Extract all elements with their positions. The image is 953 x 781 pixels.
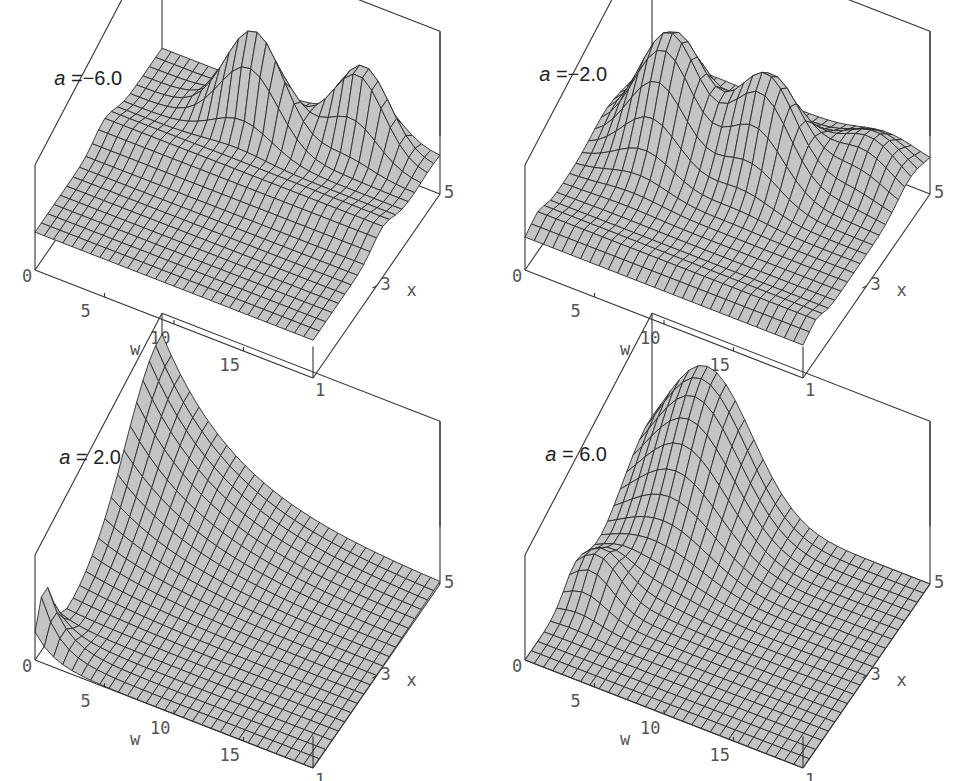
- x-tick-label: 5: [444, 182, 454, 202]
- x-axis-label: x: [407, 670, 417, 690]
- w-tick-label: 0: [22, 656, 32, 676]
- plot-panel-a-neg6: 051015w135x a =−6.0: [0, 0, 476, 390]
- w-tick-label: 15: [220, 355, 240, 375]
- frame-edge: [162, 0, 440, 31]
- w-axis-label: w: [130, 729, 141, 749]
- x-tick-label: 5: [444, 572, 454, 592]
- plot-panel-a-neg2: 051015w135x a =−2.0: [490, 0, 953, 390]
- w-tick-label: 5: [571, 301, 581, 321]
- frame-edge: [652, 0, 930, 31]
- x-tick-label: 3: [381, 664, 391, 684]
- w-tick-label: 5: [81, 691, 91, 711]
- x-tick-label: 3: [381, 274, 391, 294]
- w-axis-label: w: [620, 729, 631, 749]
- plot-panel-a-6: 051015w135x a = 6.0: [490, 390, 953, 780]
- panel-title: a = 2.0: [37, 423, 121, 492]
- x-tick-label: 1: [805, 770, 815, 781]
- x-tick-label: 5: [934, 182, 944, 202]
- x-axis-label: x: [897, 280, 907, 300]
- x-axis-label: x: [407, 280, 417, 300]
- panel-title: a = 6.0: [523, 420, 607, 489]
- panel-title: a =−2.0: [517, 40, 607, 109]
- w-tick-label: 10: [640, 718, 660, 738]
- w-tick-label: 0: [512, 266, 522, 286]
- x-tick-label: 3: [871, 664, 881, 684]
- w-tick-label: 0: [512, 656, 522, 676]
- surface-mesh: [35, 334, 440, 768]
- w-tick-label: 5: [571, 691, 581, 711]
- x-tick-label: 1: [315, 770, 325, 781]
- x-tick-label: 3: [871, 274, 881, 294]
- w-tick-label: 10: [150, 718, 170, 738]
- x-axis-label: x: [897, 670, 907, 690]
- w-tick-label: 15: [710, 745, 730, 765]
- w-tick-label: 0: [22, 266, 32, 286]
- panel-title: a =−6.0: [32, 44, 122, 113]
- w-tick-label: 5: [81, 301, 91, 321]
- x-tick-label: 5: [934, 572, 944, 592]
- plot-panel-a-2: 051015w135x a = 2.0: [0, 390, 476, 780]
- w-tick-label: 15: [220, 745, 240, 765]
